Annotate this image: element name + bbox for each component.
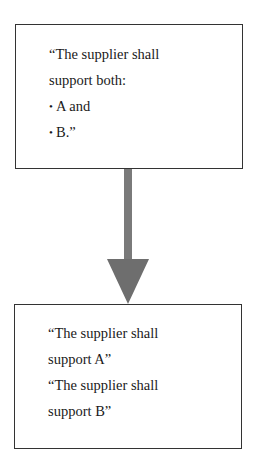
text-line: support A” [48, 346, 158, 372]
text-line: “The supplier shall [48, 320, 158, 346]
split-requirements-text: “The supplier shall support A” “The supp… [48, 320, 158, 424]
text-line: support B” [48, 398, 158, 424]
arrow-head [107, 259, 149, 304]
arrow-shaft [124, 169, 132, 261]
split-requirements-box: “The supplier shall support A” “The supp… [14, 304, 242, 449]
text-line: “The supplier shall [48, 372, 158, 398]
